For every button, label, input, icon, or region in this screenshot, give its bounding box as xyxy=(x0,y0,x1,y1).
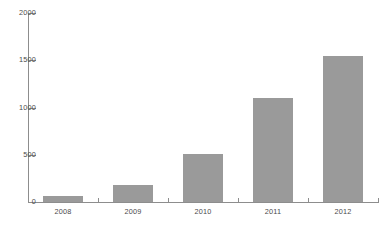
x-tick-label-2011: 2011 xyxy=(238,207,308,216)
bar-chart: 0500100015002000 20082009201020112012 xyxy=(0,0,379,228)
x-axis-line xyxy=(28,202,378,203)
bar-2009 xyxy=(113,185,153,202)
x-tick-label-2009: 2009 xyxy=(98,207,168,216)
bar-2010 xyxy=(183,154,223,202)
x-tick-boundary-2 xyxy=(168,198,169,203)
x-tick-boundary-1 xyxy=(98,198,99,203)
x-tick-boundary-3 xyxy=(238,198,239,203)
bar-2008 xyxy=(43,196,83,202)
bar-2012 xyxy=(323,56,363,202)
bars-layer xyxy=(28,13,378,202)
x-tick-label-2012: 2012 xyxy=(308,207,378,216)
x-tick-boundary-0 xyxy=(28,198,29,203)
x-tick-label-2010: 2010 xyxy=(168,207,238,216)
x-tick-label-2008: 2008 xyxy=(28,207,98,216)
x-tick-boundary-4 xyxy=(308,198,309,203)
bar-2011 xyxy=(253,98,293,202)
